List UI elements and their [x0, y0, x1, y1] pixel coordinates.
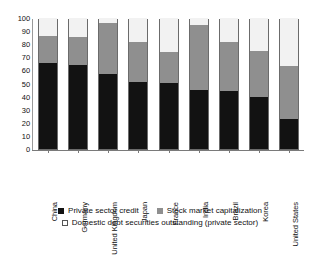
- y-axis-tick-label: 20: [22, 120, 30, 128]
- x-axis-tick: [229, 150, 230, 153]
- x-axis-tick: [138, 150, 139, 153]
- bar-segment: [250, 18, 268, 51]
- stacked-bar[interactable]: [68, 19, 88, 150]
- stacked-bar[interactable]: [128, 19, 148, 150]
- stacked-bar[interactable]: [219, 19, 239, 150]
- bar-segment: [190, 25, 208, 91]
- stacked-bar[interactable]: [279, 19, 299, 150]
- x-axis-tick: [169, 150, 170, 153]
- bar-segment: [99, 18, 117, 23]
- plot-wrapper: 0102030405060708090100 ChinaGermanyUnite…: [0, 0, 320, 160]
- bar-segment: [280, 119, 298, 149]
- bar-segment: [39, 63, 57, 149]
- legend-item-domestic-debt-securities: Domestic debt securities outstanding (pr…: [62, 218, 258, 227]
- bar-segment: [39, 18, 57, 36]
- y-axis-tick-label: 80: [22, 41, 30, 49]
- bar-segment: [129, 82, 147, 149]
- chart-legend: Private sector credit Stock market capit…: [0, 206, 320, 230]
- bar-segment: [39, 36, 57, 62]
- x-axis-tick: [289, 150, 290, 153]
- black-square-icon: [58, 208, 64, 214]
- bar-segment: [220, 91, 238, 149]
- legend-label: Domestic debt securities outstanding (pr…: [72, 218, 258, 227]
- bar-segment: [250, 51, 268, 97]
- bar-segment: [160, 83, 178, 149]
- plot-area: [33, 19, 304, 150]
- bar-group: [219, 19, 239, 150]
- stacked-bar[interactable]: [189, 19, 209, 150]
- x-axis-tick: [108, 150, 109, 153]
- bar-segment: [220, 18, 238, 42]
- bar-segment: [69, 65, 87, 149]
- bar-group: [38, 19, 58, 150]
- legend-row-primary: Private sector credit Stock market capit…: [0, 206, 320, 215]
- legend-item-stock-market-capitalization: Stock market capitalization: [157, 206, 262, 215]
- y-axis-tick-label: 60: [22, 67, 30, 75]
- bar-segment: [69, 37, 87, 65]
- bar-segment: [129, 18, 147, 42]
- y-axis-tick-label: 0: [26, 146, 30, 154]
- stacked-bar[interactable]: [38, 19, 58, 150]
- legend-label: Private sector credit: [68, 206, 139, 215]
- bar-segment: [129, 42, 147, 83]
- bar-group: [159, 19, 179, 150]
- y-axis-tick-label: 90: [22, 28, 30, 36]
- bar-group: [68, 19, 88, 150]
- y-axis-tick-labels: 0102030405060708090100: [8, 15, 30, 151]
- y-axis-tick-label: 50: [22, 81, 30, 89]
- y-axis-tick-label: 40: [22, 94, 30, 102]
- x-axis-tick: [48, 150, 49, 153]
- y-axis-tick-label: 10: [22, 133, 30, 141]
- bar-segment: [280, 66, 298, 118]
- x-axis-tick: [259, 150, 260, 153]
- legend-label: Stock market capitalization: [167, 206, 262, 215]
- y-axis-tick-label: 100: [18, 15, 30, 23]
- bar-segment: [99, 74, 117, 149]
- bar-group: [98, 19, 118, 150]
- y-axis-tick-label: 30: [22, 107, 30, 115]
- stacked-bar[interactable]: [159, 19, 179, 150]
- y-axis-tick-label: 70: [22, 54, 30, 62]
- bar-group: [189, 19, 209, 150]
- bar-segment: [190, 18, 208, 25]
- bar-segment: [250, 97, 268, 149]
- legend-item-private-sector-credit: Private sector credit: [58, 206, 139, 215]
- legend-row-secondary: Domestic debt securities outstanding (pr…: [0, 218, 320, 227]
- bar-group: [279, 19, 299, 150]
- bar-segment: [99, 23, 117, 74]
- bar-segment: [190, 90, 208, 149]
- bar-segment: [160, 18, 178, 52]
- x-axis-tick: [199, 150, 200, 153]
- bar-group: [249, 19, 269, 150]
- stacked-bar[interactable]: [98, 19, 118, 150]
- bar-group: [128, 19, 148, 150]
- x-axis-tick: [78, 150, 79, 153]
- bar-segment: [280, 18, 298, 66]
- x-axis-category-labels: ChinaGermanyUnited KingdomJapanFranceInd…: [33, 152, 304, 204]
- bar-segment: [220, 42, 238, 91]
- white-square-icon: [62, 220, 68, 226]
- bar-segment: [69, 18, 87, 37]
- gray-square-icon: [157, 208, 163, 214]
- stacked-bar[interactable]: [249, 19, 269, 150]
- bar-segment: [160, 52, 178, 83]
